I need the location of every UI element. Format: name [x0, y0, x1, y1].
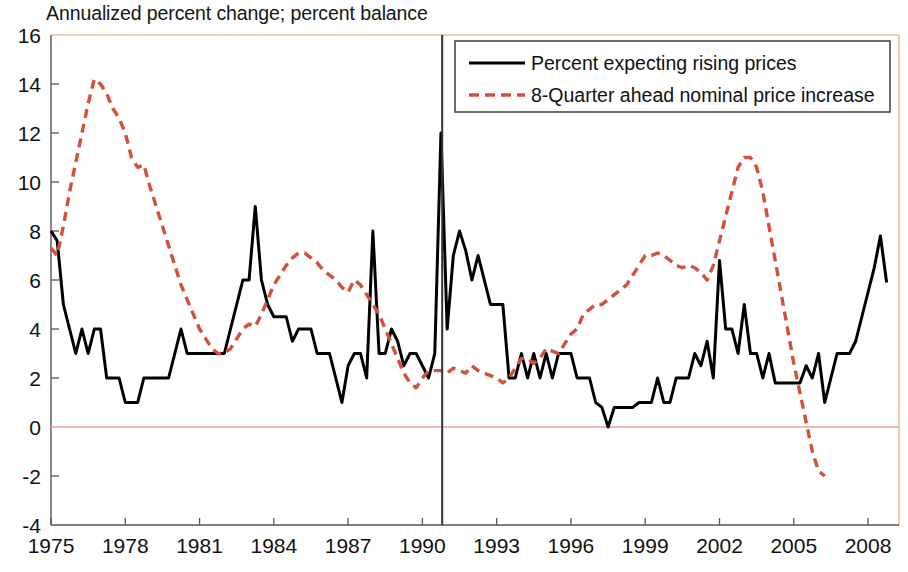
legend-label-1: Percent expecting rising prices	[531, 52, 797, 74]
y-axis-tick-label: 6	[29, 269, 41, 292]
x-axis-tick-label: 1996	[548, 534, 595, 557]
x-axis-tick-label: 1978	[102, 534, 149, 557]
x-axis-tick-label: 1999	[622, 534, 669, 557]
x-axis-tick-label: 1975	[28, 534, 75, 557]
x-axis-tick-label: 2002	[696, 534, 743, 557]
x-axis-tick-label: 2008	[845, 534, 892, 557]
chart-plot-svg: -4-20246810121416 1975197819811984198719…	[0, 0, 908, 572]
y-axis-ticks: -4-20246810121416	[18, 24, 59, 537]
legend-label-2: 8-Quarter ahead nominal price increase	[531, 84, 875, 106]
x-axis-tick-label: 2005	[770, 534, 817, 557]
y-axis-tick-label: 14	[18, 73, 42, 96]
y-axis-tick-label: 10	[18, 171, 41, 194]
x-axis-tick-label: 1993	[473, 534, 520, 557]
x-axis-tick-label: 1990	[399, 534, 446, 557]
y-axis-tick-label: 0	[29, 416, 41, 439]
y-axis-tick-label: 2	[29, 367, 41, 390]
y-axis-tick-label: 4	[29, 318, 41, 341]
y-axis-tick-label: 8	[29, 220, 41, 243]
data-series-layer	[51, 79, 887, 476]
y-axis-tick-label: -2	[22, 465, 41, 488]
x-axis-tick-label: 1984	[250, 534, 297, 557]
x-axis-tick-label: 1987	[325, 534, 372, 557]
chart-figure: Annualized percent change; percent balan…	[0, 0, 908, 572]
series-line-1	[51, 133, 887, 427]
x-axis-ticks: 1975197819811984198719901993199619992002…	[28, 518, 892, 557]
y-axis-tick-label: 12	[18, 122, 41, 145]
x-axis-tick-label: 1981	[176, 534, 223, 557]
y-axis-tick-label: 16	[18, 24, 41, 47]
chart-legend: Percent expecting rising prices8-Quarter…	[455, 41, 890, 112]
